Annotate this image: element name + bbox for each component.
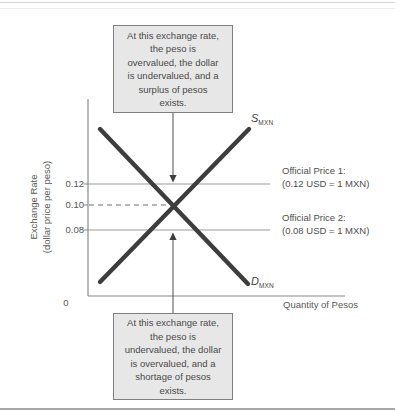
demand-curve-label: DMXN bbox=[251, 271, 274, 289]
supply-label-subscript: MXN bbox=[258, 119, 273, 126]
y-axis-title-line1: Exchange Rate bbox=[28, 127, 41, 287]
note-line: undervalued, the dollar bbox=[125, 343, 222, 357]
exchange-rate-figure: At this exchange rate, the peso is overv… bbox=[0, 0, 395, 419]
note-line: overvalued, the dollar bbox=[128, 56, 219, 70]
official-price-1-detail: (0.12 USD = 1 MXN) bbox=[282, 177, 369, 190]
official-price-2-note: Official Price 2: (0.08 USD = 1 MXN) bbox=[282, 211, 369, 237]
arrow-up-icon bbox=[169, 233, 176, 241]
note-line: exists. bbox=[160, 96, 187, 110]
demand-label-subscript: MXN bbox=[259, 282, 274, 289]
demand-label-letter: D bbox=[251, 275, 259, 287]
note-line: At this exchange rate, bbox=[127, 29, 219, 43]
bottom-page-rule bbox=[0, 408, 395, 410]
undervalued-peso-note-box: At this exchange rate, the peso is under… bbox=[113, 313, 233, 400]
supply-curve-label: SMXN bbox=[251, 108, 273, 126]
y-tick-label-010: 0.10 bbox=[52, 199, 84, 211]
note-line: exists. bbox=[160, 384, 187, 398]
note-line: At this exchange rate, bbox=[127, 316, 219, 330]
note-line: the peso is bbox=[150, 42, 196, 56]
x-axis-title: Quantity of Pesos bbox=[218, 299, 358, 310]
arrow-down-icon bbox=[169, 175, 176, 183]
note-line: the peso is bbox=[150, 330, 196, 344]
official-price-1-note: Official Price 1: (0.12 USD = 1 MXN) bbox=[282, 164, 369, 190]
y-tick-label-012: 0.12 bbox=[52, 178, 84, 190]
official-price-2-title: Official Price 2: bbox=[282, 211, 369, 224]
overvalued-peso-note-box: At this exchange rate, the peso is overv… bbox=[113, 25, 233, 113]
origin-label: 0 bbox=[58, 297, 74, 308]
y-axis-title: Exchange Rate (dollar price per peso) bbox=[28, 127, 54, 287]
note-line: is overvalued, and a bbox=[130, 357, 215, 371]
y-tick-label-008: 0.08 bbox=[52, 224, 84, 236]
note-line: is undervalued, and a bbox=[128, 69, 219, 83]
official-price-1-title: Official Price 1: bbox=[282, 164, 369, 177]
note-line: surplus of pesos bbox=[138, 83, 207, 97]
note-line: shortage of pesos bbox=[135, 370, 211, 384]
official-price-2-detail: (0.08 USD = 1 MXN) bbox=[282, 224, 369, 237]
